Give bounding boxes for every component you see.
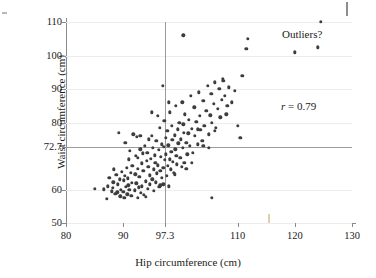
data-point	[183, 161, 186, 164]
data-point	[145, 159, 148, 162]
data-point	[293, 50, 296, 53]
data-point	[133, 188, 136, 191]
data-point	[148, 183, 151, 186]
y-axis-tick-label: 60	[52, 185, 63, 196]
data-point	[218, 87, 221, 90]
y-axis-tick	[62, 190, 66, 191]
correlation-symbol: r	[281, 100, 285, 112]
data-point	[152, 189, 155, 192]
x-axis-tick-label: 130	[344, 231, 360, 242]
y-axis-tick-label: 72.7	[44, 142, 62, 153]
data-point	[193, 134, 196, 137]
page-edge-mark-top-right	[346, 2, 348, 16]
data-point	[148, 174, 151, 177]
scan-artifact-mark	[268, 214, 270, 223]
data-point	[129, 171, 132, 174]
data-point	[186, 153, 189, 156]
data-point	[121, 190, 124, 193]
data-point	[167, 184, 170, 187]
data-point	[117, 131, 120, 134]
data-point	[208, 113, 211, 116]
data-point	[171, 160, 174, 163]
data-point	[182, 122, 185, 125]
data-point	[175, 154, 178, 157]
data-point	[182, 131, 185, 134]
data-point	[164, 153, 167, 156]
gridline-y	[66, 22, 352, 23]
data-point	[187, 132, 190, 135]
data-point	[223, 94, 226, 97]
data-point	[210, 121, 213, 124]
y-axis-title-container: Waist circumference (cm)	[6, 0, 26, 224]
y-axis-tick	[62, 56, 66, 57]
data-point	[167, 101, 170, 104]
data-point	[142, 169, 145, 172]
data-point	[130, 194, 133, 197]
data-point	[187, 118, 190, 121]
data-point	[244, 47, 247, 50]
data-point	[239, 136, 242, 139]
data-point	[153, 154, 156, 157]
data-point	[140, 162, 143, 165]
data-point	[173, 134, 176, 137]
data-point	[316, 45, 319, 48]
data-point	[150, 111, 153, 114]
data-point	[184, 167, 187, 170]
data-point	[155, 172, 158, 175]
y-axis-tick	[62, 22, 66, 23]
data-point	[202, 99, 205, 102]
data-point	[183, 112, 186, 115]
y-axis-tick	[62, 147, 66, 148]
data-point	[126, 192, 129, 195]
data-point	[213, 129, 216, 132]
data-point	[112, 180, 115, 183]
data-point	[173, 173, 176, 176]
data-point	[192, 106, 195, 109]
data-point	[150, 134, 153, 137]
data-point	[212, 102, 215, 105]
data-point	[156, 164, 159, 167]
data-point	[105, 197, 108, 200]
x-axis-tick	[238, 223, 239, 227]
data-point	[156, 114, 159, 117]
data-point	[157, 148, 160, 151]
data-point	[190, 161, 193, 164]
data-point	[233, 89, 236, 92]
data-point	[161, 84, 164, 87]
data-point	[116, 183, 119, 186]
data-point	[116, 190, 119, 193]
plot-area	[66, 22, 352, 223]
data-point	[131, 164, 134, 167]
data-point	[170, 124, 173, 127]
data-point	[203, 124, 206, 127]
data-point	[171, 138, 174, 141]
data-point	[168, 111, 171, 114]
data-point	[123, 196, 126, 199]
x-axis-tick-label: 120	[287, 231, 303, 242]
data-point	[176, 142, 179, 145]
data-point	[108, 176, 111, 179]
x-axis-tick-label: 97.3	[156, 231, 174, 242]
data-point	[124, 141, 127, 144]
data-point	[174, 148, 177, 151]
data-point	[191, 151, 194, 154]
data-point	[136, 156, 139, 159]
data-point	[219, 116, 222, 119]
y-axis-tick-label: 110	[47, 17, 62, 28]
x-axis-tick	[66, 223, 67, 227]
data-point	[216, 107, 219, 110]
data-point	[163, 158, 166, 161]
data-point	[128, 188, 131, 191]
data-point	[144, 195, 147, 198]
annotation-outliers: Outliers?	[282, 28, 322, 40]
data-point	[170, 150, 173, 153]
data-point	[127, 158, 130, 161]
gridline-y	[66, 89, 352, 90]
data-point	[136, 167, 139, 170]
data-point	[213, 81, 216, 84]
data-point	[174, 104, 177, 107]
data-point	[246, 37, 249, 40]
data-point	[112, 168, 115, 171]
x-axis-tick-label: 80	[61, 231, 72, 242]
x-axis-tick	[295, 223, 296, 227]
